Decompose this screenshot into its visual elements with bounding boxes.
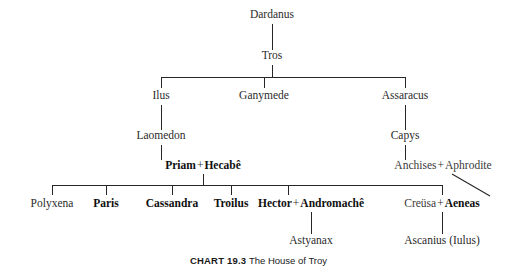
- node-creusa-label: Creüsa: [404, 197, 436, 209]
- edge-hector-astyanax: [311, 212, 312, 234]
- node-andromache-label: Andromachê: [300, 197, 364, 209]
- node-hector-label: Hector: [258, 197, 292, 209]
- chart-caption-title: The House of Troy: [249, 255, 327, 266]
- node-astyanax: Astyanax: [289, 234, 332, 247]
- node-cassandra: Cassandra: [146, 197, 198, 210]
- edge-anchises-aeneas-diagonal: [0, 0, 517, 270]
- chart-caption: CHART 19.3 The House of Troy: [0, 255, 517, 266]
- node-aeneas-label: Aeneas: [445, 197, 480, 209]
- node-troilus: Troilus: [214, 197, 249, 210]
- node-hector-andromache: Hector+Andromachê: [258, 197, 364, 210]
- node-ascanius: Ascanius (Iulus): [404, 234, 480, 247]
- node-paris: Paris: [93, 197, 119, 210]
- edge-aeneas-ascanius: [442, 212, 443, 234]
- family-tree-chart: Dardanus Tros Ilus Ganymede Assaracus La…: [0, 0, 517, 270]
- node-polyxena: Polyxena: [31, 197, 74, 210]
- chart-caption-label: CHART 19.3: [190, 255, 246, 266]
- node-creusa-aeneas: Creüsa+Aeneas: [404, 197, 480, 210]
